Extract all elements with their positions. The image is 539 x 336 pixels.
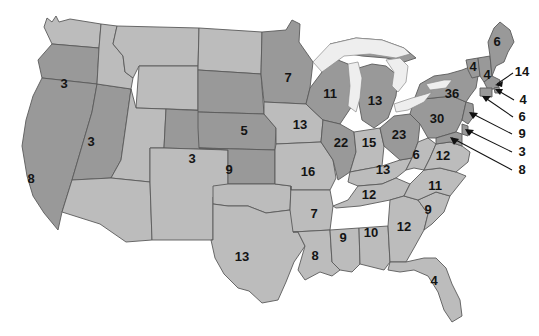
callout-value-RI: 4 bbox=[519, 92, 527, 107]
value-label-SC: 9 bbox=[424, 202, 431, 217]
states-layer bbox=[22, 16, 514, 322]
value-label-IN: 15 bbox=[362, 135, 376, 150]
us-electoral-map: 3 8 3 3 5 9 13 7 13 16 7 8 11 22 9 13 15… bbox=[0, 0, 539, 336]
leader-line-NJ bbox=[471, 113, 512, 134]
value-label-GA: 12 bbox=[397, 219, 411, 234]
value-label-OR: 3 bbox=[60, 76, 67, 91]
value-label-VT: 4 bbox=[469, 59, 477, 74]
state-AZ[interactable] bbox=[62, 178, 152, 242]
state-ME[interactable] bbox=[488, 22, 514, 76]
value-label-AR: 7 bbox=[310, 206, 317, 221]
leader-line-DE bbox=[467, 130, 512, 152]
value-label-VA: 12 bbox=[436, 148, 450, 163]
value-label-IL: 22 bbox=[334, 135, 348, 150]
value-label-CO: 3 bbox=[188, 151, 195, 166]
value-label-NE: 9 bbox=[225, 162, 232, 177]
value-label-PA: 30 bbox=[430, 111, 444, 126]
value-label-NV: 3 bbox=[87, 134, 94, 149]
value-label-IA: 13 bbox=[293, 117, 307, 132]
callout-value-MD: 8 bbox=[518, 162, 525, 177]
value-label-ME: 6 bbox=[493, 34, 500, 49]
callout-value-NJ: 9 bbox=[518, 126, 525, 141]
value-label-NH: 4 bbox=[483, 67, 491, 82]
value-label-FL: 4 bbox=[430, 273, 438, 288]
value-label-MN: 7 bbox=[284, 70, 291, 85]
value-label-WI: 11 bbox=[323, 86, 337, 101]
value-label-OH: 23 bbox=[392, 127, 406, 142]
value-label-AL: 10 bbox=[364, 225, 378, 240]
state-WA[interactable] bbox=[44, 16, 101, 48]
value-label-NY: 36 bbox=[445, 86, 459, 101]
value-label-MO: 16 bbox=[301, 164, 315, 179]
callout-value-CT: 6 bbox=[518, 109, 525, 124]
callout-value-MA: 14 bbox=[515, 64, 530, 79]
state-ND[interactable] bbox=[198, 28, 262, 74]
map-svg: 3 8 3 3 5 9 13 7 13 16 7 8 11 22 9 13 15… bbox=[0, 0, 539, 336]
state-OR[interactable] bbox=[38, 44, 99, 84]
value-label-TX: 13 bbox=[235, 249, 249, 264]
state-NE[interactable] bbox=[198, 112, 276, 150]
value-label-MI: 13 bbox=[368, 93, 382, 108]
value-label-CA: 8 bbox=[27, 171, 34, 186]
state-SD[interactable] bbox=[198, 70, 264, 114]
callout-value-DE: 3 bbox=[518, 144, 525, 159]
value-label-SD: 5 bbox=[240, 123, 247, 138]
leader-line-MA bbox=[497, 73, 513, 84]
state-FL[interactable] bbox=[388, 258, 462, 322]
state-WY[interactable] bbox=[136, 66, 198, 110]
state-CT[interactable] bbox=[480, 88, 492, 97]
state-MN[interactable] bbox=[261, 20, 313, 104]
value-label-WV: 6 bbox=[412, 147, 419, 162]
value-label-NC: 11 bbox=[428, 178, 442, 193]
value-label-MS: 9 bbox=[339, 230, 346, 245]
value-label-LA: 8 bbox=[311, 248, 318, 263]
value-label-KY: 13 bbox=[376, 162, 390, 177]
leader-line-CT bbox=[484, 97, 513, 117]
value-label-TN: 12 bbox=[362, 187, 376, 202]
